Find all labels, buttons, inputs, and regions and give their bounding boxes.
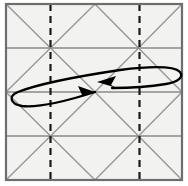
crease-pattern-figure: Origami crease pattern with swivel-fold … xyxy=(0,0,188,186)
crease-pattern-canvas xyxy=(0,0,188,186)
